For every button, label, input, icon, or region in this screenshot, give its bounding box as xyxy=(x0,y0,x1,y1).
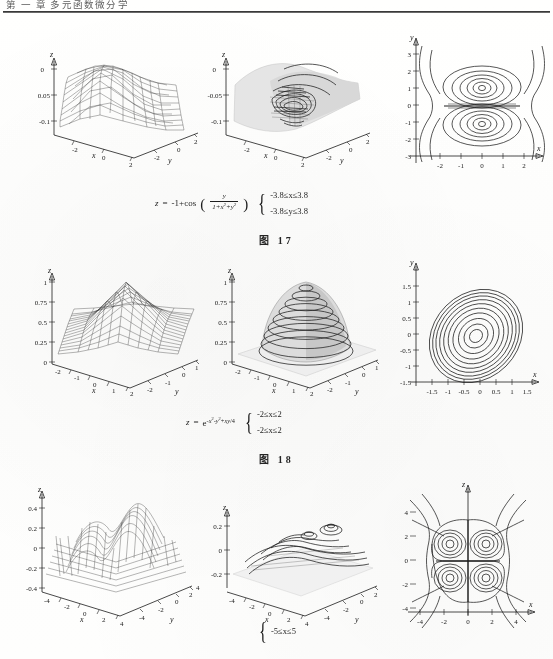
fraction-denominator: 1+x2+y2 xyxy=(210,201,238,212)
svg-text:x: x xyxy=(79,615,84,624)
svg-text:2: 2 xyxy=(366,138,370,146)
fig17-formula-lhs: z xyxy=(155,198,159,208)
fig19-surface-mesh-panel: z 0.4 0.2 0 -0.2 -0.4 -4 -2 0 2 4 x xyxy=(20,470,200,635)
svg-text:0: 0 xyxy=(44,359,48,367)
svg-text:-2: -2 xyxy=(402,581,408,589)
svg-text:x: x xyxy=(528,600,533,609)
svg-text:x: x xyxy=(536,144,541,153)
svg-text:0: 0 xyxy=(224,359,228,367)
fig19-level-curve-surface-panel: z 0.2 0 -0.2 -4 -2 0 2 4 x -4 xyxy=(205,470,385,635)
svg-text:0: 0 xyxy=(362,371,366,379)
svg-text:1: 1 xyxy=(408,299,412,307)
svg-text:0: 0 xyxy=(408,331,412,339)
fig17-domain-group: { -3.8≤x≤3.8 -3.8≤y≤3.8 xyxy=(256,190,308,216)
svg-text:-2: -2 xyxy=(158,606,164,614)
svg-text:-0.4: -0.4 xyxy=(26,585,38,593)
svg-text:1: 1 xyxy=(375,364,379,372)
svg-text:0.5: 0.5 xyxy=(402,315,411,323)
svg-text:1.5: 1.5 xyxy=(523,388,532,396)
figure-17: z 0 -0.05 -0.1 -2 0 2 x -2 xyxy=(0,20,553,235)
svg-text:2: 2 xyxy=(129,161,133,169)
svg-text:x: x xyxy=(263,151,268,160)
svg-text:1: 1 xyxy=(292,387,296,395)
svg-text:0: 0 xyxy=(182,371,186,379)
fig18-level-curve-surface-panel: z 1 0.75 0.5 0.25 0 -2 -1 0 1 2 x xyxy=(210,246,385,396)
svg-text:x: x xyxy=(532,370,537,379)
svg-text:-1: -1 xyxy=(345,379,351,387)
svg-text:-1: -1 xyxy=(405,363,411,371)
svg-text:4: 4 xyxy=(120,620,124,628)
svg-text:y: y xyxy=(354,387,359,396)
svg-text:0.5: 0.5 xyxy=(218,319,227,327)
fig18-domain-x: -2≤x≤2 xyxy=(257,409,282,419)
svg-text:2: 2 xyxy=(490,618,494,626)
svg-text:-1: -1 xyxy=(165,379,171,387)
fig19-domain-group: { -5≤x≤5 xyxy=(257,622,296,640)
svg-text:0.4: 0.4 xyxy=(28,505,37,513)
svg-text:z: z xyxy=(461,480,466,489)
svg-text:-4: -4 xyxy=(417,618,423,626)
svg-text:0.5: 0.5 xyxy=(492,388,501,396)
svg-text:-1: -1 xyxy=(405,119,411,127)
svg-text:2: 2 xyxy=(189,591,193,599)
svg-text:0: 0 xyxy=(41,66,45,74)
svg-text:-2: -2 xyxy=(405,136,411,144)
svg-text:-4: -4 xyxy=(324,614,330,622)
svg-text:-0.05: -0.05 xyxy=(207,92,222,100)
svg-text:-4: -4 xyxy=(402,605,408,613)
svg-text:-4: -4 xyxy=(229,597,235,605)
svg-text:0.75: 0.75 xyxy=(35,299,48,307)
svg-text:-2: -2 xyxy=(441,618,447,626)
fig19-domain-x: -5≤x≤5 xyxy=(271,626,296,636)
svg-text:0: 0 xyxy=(177,146,181,154)
svg-text:1: 1 xyxy=(44,279,48,287)
svg-text:z: z xyxy=(49,50,54,59)
fig18-domain-group: { -2≤x≤2 -2≤x≤2 xyxy=(243,409,282,435)
svg-text:0.5: 0.5 xyxy=(38,319,47,327)
svg-text:z: z xyxy=(221,50,226,59)
svg-text:-2: -2 xyxy=(147,386,153,394)
running-head: 第 一 章 多元函数微分学 xyxy=(6,0,129,11)
fig17-caption: 图 17 xyxy=(0,232,553,247)
svg-text:-1.5: -1.5 xyxy=(400,379,412,387)
svg-text:2: 2 xyxy=(408,68,412,76)
svg-text:1: 1 xyxy=(224,279,228,287)
svg-text:2: 2 xyxy=(310,390,314,398)
fig17-level-curve-surface-panel: z 0 -0.05 -0.1 -2 0 2 x -2 xyxy=(210,25,380,170)
svg-text:-2: -2 xyxy=(249,603,255,611)
svg-text:0: 0 xyxy=(213,66,217,74)
svg-text:0: 0 xyxy=(360,598,364,606)
svg-text:2: 2 xyxy=(374,591,378,599)
svg-text:0.75: 0.75 xyxy=(215,299,228,307)
svg-text:1: 1 xyxy=(112,387,116,395)
left-brace: { xyxy=(245,413,253,431)
svg-text:1: 1 xyxy=(510,388,514,396)
svg-text:2: 2 xyxy=(130,390,134,398)
svg-text:4: 4 xyxy=(305,620,309,628)
svg-text:4: 4 xyxy=(405,509,409,517)
svg-text:0: 0 xyxy=(408,102,412,110)
svg-text:-0.2: -0.2 xyxy=(211,571,223,579)
fig17-domain-x: -3.8≤x≤3.8 xyxy=(270,190,308,200)
figure-19: z 0.4 0.2 0 -0.2 -0.4 -4 -2 0 2 4 x xyxy=(0,470,553,659)
svg-text:1: 1 xyxy=(195,364,199,372)
svg-text:0: 0 xyxy=(102,154,106,162)
svg-text:z: z xyxy=(227,266,232,275)
svg-text:1.5: 1.5 xyxy=(402,283,411,291)
svg-text:0.2: 0.2 xyxy=(213,523,222,531)
fig17-fraction: y 1+x2+y2 xyxy=(210,193,238,211)
svg-text:-1: -1 xyxy=(254,374,260,382)
svg-text:2: 2 xyxy=(405,533,409,541)
fig18-formula: z = e-x2-y2+xy/4 { -2≤x≤2 -2≤x≤2 xyxy=(186,409,282,435)
svg-text:-2: -2 xyxy=(55,368,61,376)
svg-text:-0.5: -0.5 xyxy=(458,388,470,396)
fig17-formula-prefix: -1+cos xyxy=(172,198,197,208)
fig17-formula-equals: = xyxy=(163,198,168,208)
fig18-formula-equals: = xyxy=(194,417,199,427)
svg-text:2: 2 xyxy=(301,161,305,169)
svg-text:0.25: 0.25 xyxy=(35,339,48,347)
svg-text:y: y xyxy=(169,615,174,624)
svg-text:-0.5: -0.5 xyxy=(400,347,412,355)
fig19-contour-panel: z x 4 2 0 -2 -4 -4 -2 0 2 4 xyxy=(392,474,547,634)
svg-text:0: 0 xyxy=(478,388,482,396)
